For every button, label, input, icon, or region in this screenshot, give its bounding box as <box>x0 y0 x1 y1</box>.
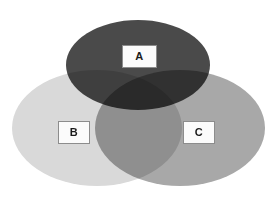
set-label-a-text: A <box>135 51 143 62</box>
set-label-b-text: B <box>70 127 78 138</box>
set-label-c: C <box>183 121 215 144</box>
venn-canvas <box>0 0 276 197</box>
set-label-c-text: C <box>195 127 203 138</box>
set-label-a: A <box>122 45 157 68</box>
venn-diagram: A B C <box>0 0 276 197</box>
set-label-b: B <box>58 121 90 144</box>
